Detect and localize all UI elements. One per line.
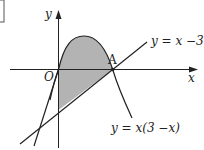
y-axis-label: y xyxy=(44,7,52,21)
point-a-marker xyxy=(111,68,115,72)
parabola-equation-label: y = x(3 −x) xyxy=(110,121,180,135)
x-axis-label: x xyxy=(188,71,195,85)
line-equation-label: y = x −3 xyxy=(150,34,204,48)
point-a-label: A xyxy=(107,53,117,67)
graph: y x O A y = x −3 y = x(3 −x) xyxy=(0,0,204,150)
origin-label: O xyxy=(44,70,54,84)
problem-number-box xyxy=(0,0,4,22)
y-axis-arrow-icon xyxy=(56,10,62,19)
